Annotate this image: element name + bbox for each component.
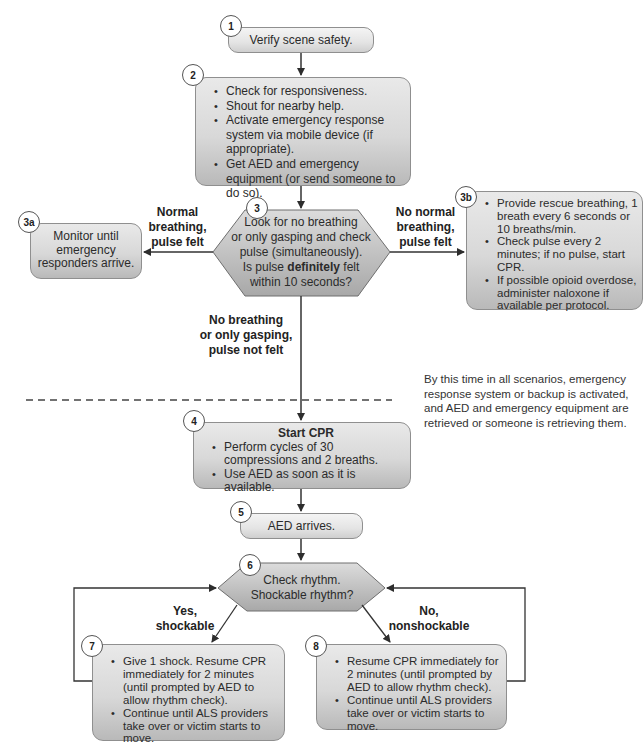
edge-label-nonshockable: No, nonshockable — [384, 604, 474, 634]
step-8-item: Resume CPR immediately for 2 minutes (un… — [347, 655, 502, 694]
step-8-box: Resume CPR immediately for 2 minutes (un… — [316, 644, 507, 730]
edge-label-line: Yes, — [145, 604, 225, 619]
step-4-badge: 4 — [183, 410, 205, 432]
step-4-item: Perform cycles of 30 compressions and 2 … — [224, 441, 404, 467]
step-7-badge: 7 — [81, 635, 103, 657]
scenario-note: By this time in all scenarios, emergency… — [424, 372, 642, 430]
edge-label-line: pulse not felt — [196, 343, 296, 358]
step-7-item: Give 1 shock. Resume CPR immediately for… — [123, 655, 280, 707]
step-3b-item: If possible opioid overdose, administer … — [497, 274, 638, 312]
step-3-text-part: felt — [340, 260, 359, 274]
step-3a-text: Monitor until emergency responders arriv… — [38, 229, 135, 270]
edge-label-line: shockable — [145, 619, 225, 634]
step-3-text: Look for no breathing or only gasping an… — [228, 215, 374, 290]
step-4-title: Start CPR — [208, 427, 404, 440]
step-2-badge: 2 — [182, 64, 204, 86]
step-7-box: Give 1 shock. Resume CPR immediately for… — [92, 644, 285, 741]
step-6-line: Check rhythm. — [240, 573, 364, 588]
step-3-line: within 10 seconds? — [228, 275, 374, 290]
step-3-line: or only gasping and check — [228, 230, 374, 245]
step-1-badge: 1 — [220, 15, 242, 37]
step-4-item: Use AED as soon as it is available. — [224, 468, 404, 494]
step-3-emphasis: definitely — [287, 260, 340, 274]
step-1-text: Verify scene safety. — [249, 33, 352, 47]
edge-label-line: or only gasping, — [196, 328, 296, 343]
step-3-line: Is pulse definitely felt — [228, 260, 374, 275]
step-3-badge: 3 — [246, 197, 268, 219]
edge-label-line: pulse felt — [140, 235, 215, 250]
step-2-item: Activate emergency response system via m… — [226, 113, 402, 157]
step-2-box: Check for responsiveness. Shout for near… — [195, 77, 411, 186]
step-3b-item: Provide rescue breathing, 1 breath every… — [497, 197, 638, 235]
edge-label-shockable: Yes, shockable — [145, 604, 225, 634]
step-3-line: pulse (simultaneously). — [228, 245, 374, 260]
step-2-item: Check for responsiveness. — [226, 84, 402, 99]
step-2-item: Get AED and emergency equipment (or send… — [226, 157, 402, 201]
step-6-line: Shockable rhythm? — [240, 588, 364, 603]
step-1-box: Verify scene safety. — [228, 27, 374, 53]
edge-label-line: breathing, — [388, 220, 463, 235]
edge-label-normal-breathing: Normal breathing, pulse felt — [140, 205, 215, 250]
edge-label-line: pulse felt — [388, 235, 463, 250]
step-5-badge: 5 — [230, 501, 252, 523]
step-4-box: Start CPR Perform cycles of 30 compressi… — [193, 422, 411, 489]
edge-label-line: No breathing — [196, 313, 296, 328]
step-5-text: AED arrives. — [268, 519, 335, 533]
edge-label-line: No normal — [388, 205, 463, 220]
edge-label-line: Normal — [140, 205, 215, 220]
step-3a-box: Monitor until emergency responders arriv… — [30, 223, 142, 279]
edge-label-line: breathing, — [140, 220, 215, 235]
step-8-badge: 8 — [305, 635, 327, 657]
edge-label-no-normal-breathing: No normal breathing, pulse felt — [388, 205, 463, 250]
step-6-text: Check rhythm. Shockable rhythm? — [240, 573, 364, 603]
step-3b-item: Check pulse every 2 minutes; if no pulse… — [497, 235, 638, 273]
step-3-text-part: Is pulse — [243, 260, 288, 274]
step-8-item: Continue until ALS providers take over o… — [347, 694, 502, 733]
edge-label-no-breathing: No breathing or only gasping, pulse not … — [196, 313, 296, 358]
step-2-item: Shout for nearby help. — [226, 99, 402, 114]
step-6-badge: 6 — [239, 554, 261, 576]
step-3b-box: Provide rescue breathing, 1 breath every… — [466, 191, 643, 310]
step-7-item: Continue until ALS providers take over o… — [123, 707, 280, 746]
step-3a-badge: 3a — [18, 211, 40, 233]
edge-label-line: No, — [384, 604, 474, 619]
step-5-box: AED arrives. — [240, 513, 363, 539]
step-3-line: Look for no breathing — [228, 215, 374, 230]
edge-label-line: nonshockable — [384, 619, 474, 634]
